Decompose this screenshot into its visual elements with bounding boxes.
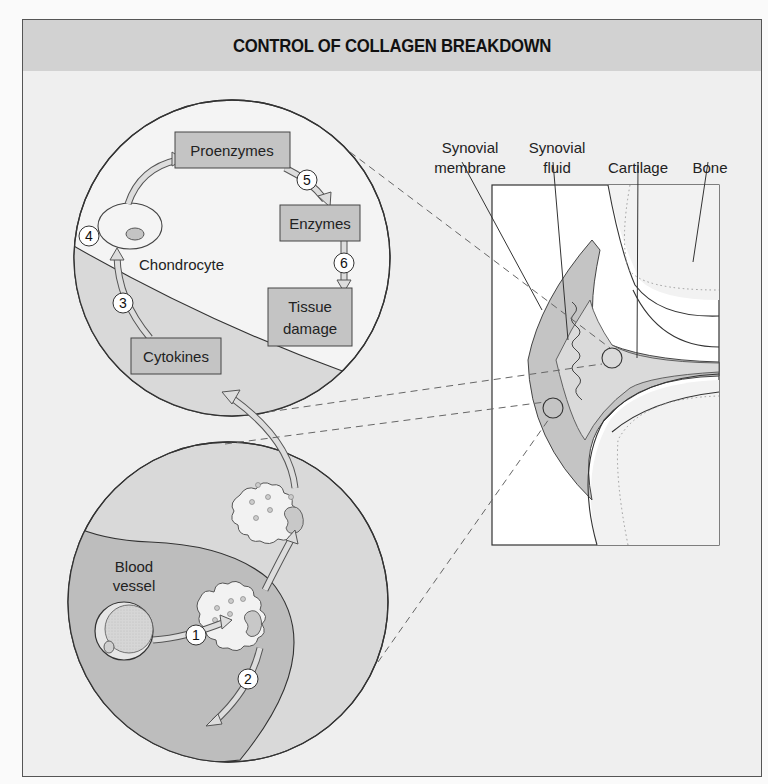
- blood-vessel-label-2: vessel: [113, 577, 156, 594]
- label-cartilage: Cartilage: [608, 159, 668, 176]
- box-enzymes: Enzymes: [280, 205, 360, 241]
- label-synovial-fluid-1: Synovial: [529, 139, 586, 156]
- step-badge-2: 2: [238, 669, 258, 689]
- label-synovial-fluid-2: fluid: [543, 159, 571, 176]
- step-badge-3: 3: [113, 293, 133, 313]
- blood-vessel-label-1: Blood: [115, 558, 153, 575]
- svg-text:Cytokines: Cytokines: [143, 348, 209, 365]
- label-bone: Bone: [692, 159, 727, 176]
- chondrocyte-label: Chondrocyte: [139, 256, 224, 273]
- chondrocyte-nucleus-icon: [126, 228, 144, 240]
- label-synovial-membrane-1: Synovial: [442, 139, 499, 156]
- svg-text:5: 5: [303, 172, 311, 188]
- blood-vessel-icon: [95, 602, 153, 660]
- collagen-diagram: Chondrocyte Proenzymes Enzymes Tissue da…: [0, 0, 768, 784]
- joint-labels: Synovial membrane Synovial fluid Cartila…: [434, 139, 727, 176]
- box-proenzymes: Proenzymes: [175, 132, 290, 168]
- svg-text:1: 1: [192, 627, 200, 643]
- svg-text:2: 2: [244, 671, 252, 687]
- svg-text:3: 3: [119, 295, 127, 311]
- box-cytokines: Cytokines: [131, 338, 221, 374]
- chondrocyte-cell-icon: [98, 203, 162, 249]
- step-badge-1: 1: [186, 625, 206, 645]
- svg-text:damage: damage: [283, 320, 337, 337]
- box-tissue-damage: Tissue damage: [268, 288, 352, 346]
- svg-text:6: 6: [340, 255, 348, 271]
- step-badge-6: 6: [334, 253, 354, 273]
- svg-text:Enzymes: Enzymes: [289, 215, 351, 232]
- lower-circle: Blood vessel: [40, 442, 388, 780]
- label-synovial-membrane-2: membrane: [434, 159, 506, 176]
- step-badge-4: 4: [79, 226, 99, 246]
- svg-text:4: 4: [85, 228, 93, 244]
- joint-box: [492, 185, 719, 545]
- svg-text:Tissue: Tissue: [288, 298, 332, 315]
- step-badge-5: 5: [297, 170, 317, 190]
- svg-text:Proenzymes: Proenzymes: [190, 142, 273, 159]
- upper-circle: Chondrocyte Proenzymes Enzymes Tissue da…: [60, 100, 400, 430]
